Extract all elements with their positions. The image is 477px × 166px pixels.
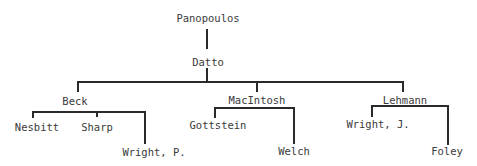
node-welch: Welch	[278, 146, 310, 157]
node-lehmann: Lehmann	[383, 95, 427, 106]
edge-datto-macintosh	[256, 81, 258, 92]
edge-lehmann-wright-j	[371, 105, 373, 117]
lehmann-connector	[371, 105, 449, 107]
edge-beck-nesbitt	[32, 111, 34, 118]
node-gottstein: Gottstein	[190, 120, 247, 131]
node-nesbitt: Nesbitt	[15, 122, 59, 133]
edge-panopoulos-datto	[206, 29, 208, 49]
tree-diagram: Panopoulos Datto Beck MacIntosh Lehmann …	[0, 0, 477, 166]
node-macintosh: MacIntosh	[229, 95, 286, 106]
node-beck: Beck	[62, 96, 87, 107]
macintosh-connector	[214, 107, 295, 109]
level2-connector	[77, 81, 404, 83]
edge-lehmann-foley	[447, 105, 449, 145]
beck-connector	[32, 111, 146, 113]
node-wright-p: Wright, P.	[122, 147, 185, 158]
edge-macintosh-gottstein	[214, 107, 216, 118]
edge-macintosh-welch	[293, 107, 295, 144]
node-datto: Datto	[192, 57, 224, 68]
edge-beck-wright-p	[144, 111, 146, 144]
edge-beck-sharp	[96, 111, 98, 117]
node-wright-j: Wright, J.	[346, 119, 409, 130]
node-sharp: Sharp	[81, 122, 113, 133]
edge-datto-beck	[77, 81, 79, 92]
edge-datto-lehmann	[402, 81, 404, 92]
node-panopoulos: Panopoulos	[176, 13, 239, 24]
node-foley: Foley	[431, 146, 463, 157]
